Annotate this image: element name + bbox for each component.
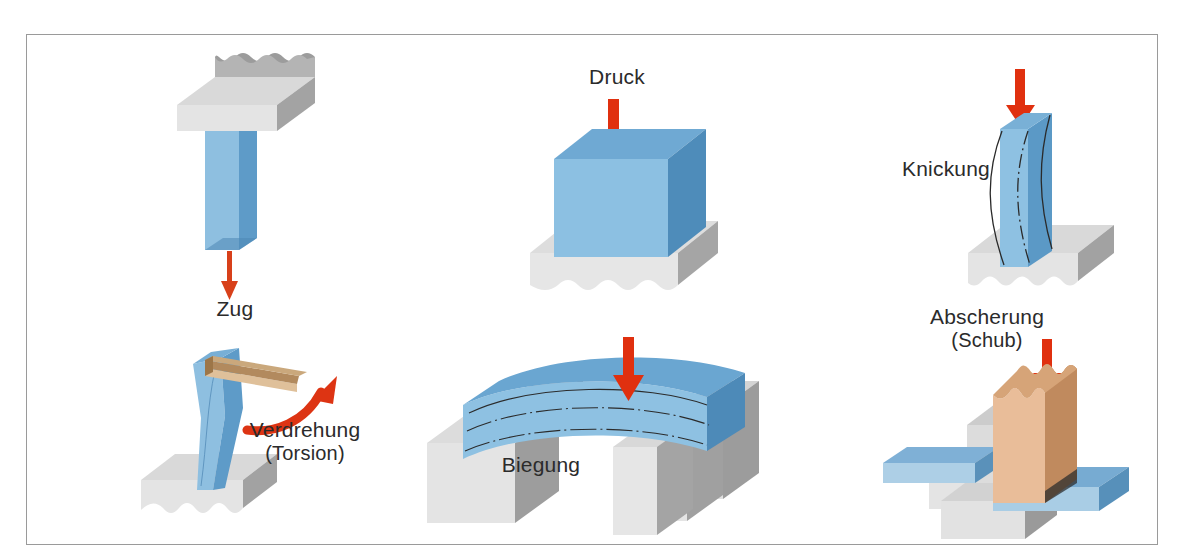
- blue-beam: [463, 357, 745, 459]
- panel-knickung: Knickung: [882, 45, 1182, 325]
- blue-cube: [554, 129, 706, 257]
- panel-abscherung: Abscherung (Schub): [867, 305, 1182, 545]
- label-biegung: Biegung: [451, 453, 631, 477]
- label-druck: Druck: [542, 65, 692, 89]
- tension-arrow-down: [221, 251, 238, 300]
- diagram-frame: Zug Druck: [26, 34, 1158, 545]
- zug-illustration: [117, 45, 417, 315]
- label-abscherung: Abscherung (Schub): [887, 305, 1087, 351]
- knickung-illustration: [882, 45, 1182, 325]
- panel-druck: Druck: [482, 45, 812, 325]
- label-knickung: Knickung: [902, 157, 990, 181]
- panel-verdrehung: Verdrehung (Torsion): [97, 330, 427, 535]
- panel-biegung: Biegung: [407, 335, 787, 545]
- panel-zug: Zug: [117, 45, 417, 315]
- label-zug: Zug: [195, 297, 275, 321]
- label-verdrehung: Verdrehung (Torsion): [215, 418, 395, 464]
- tan-block: [993, 364, 1077, 503]
- biegung-illustration: [407, 335, 787, 545]
- blue-bar-left: [883, 447, 999, 483]
- ceiling-block: [177, 53, 315, 131]
